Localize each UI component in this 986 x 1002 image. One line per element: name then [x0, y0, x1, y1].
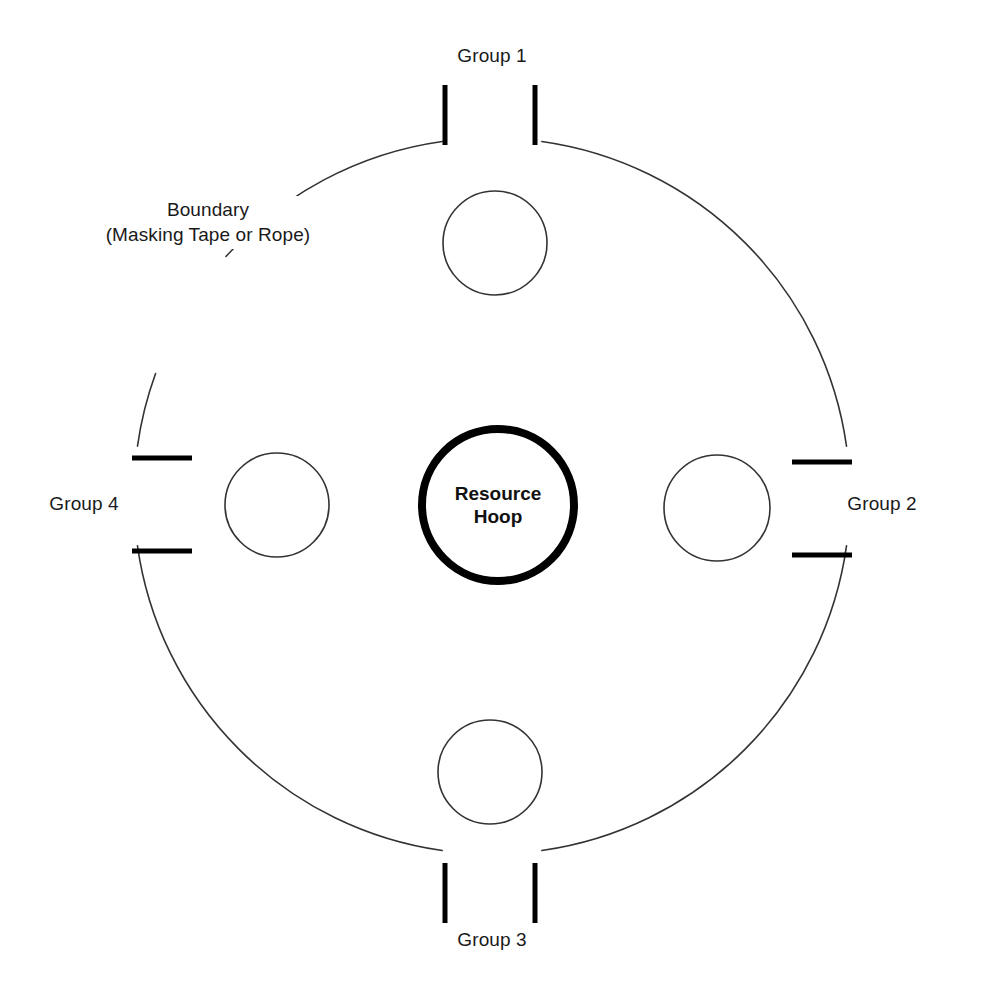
- resource-hoop-label: Resource Hoop: [455, 482, 542, 528]
- group-3-label: Group 3: [457, 928, 526, 953]
- boundary-label-line-2: (Masking Tape or Rope): [106, 224, 311, 245]
- boundary-arc-right-bottom: [542, 546, 847, 851]
- group-4-circle: [225, 453, 329, 557]
- boundary-label-line-1: Boundary: [167, 199, 249, 220]
- boundary-label: Boundary (Masking Tape or Rope): [100, 196, 317, 249]
- boundary-arc-left-top-lower: [137, 374, 155, 447]
- group-4-label: Group 4: [49, 492, 118, 517]
- group-1-label: Group 1: [457, 44, 526, 69]
- group-2-circle: [664, 455, 770, 561]
- boundary-arc-top-right: [542, 141, 847, 446]
- group-1-circle: [443, 191, 547, 295]
- group-3-circle: [438, 720, 542, 824]
- boundary-arc-bottom-left: [137, 546, 442, 851]
- resource-hoop-label-line-1: Resource: [455, 483, 542, 504]
- group-2-label: Group 2: [847, 492, 916, 517]
- diagram-canvas: Resource Hoop Boundary (Masking Tape or …: [0, 0, 986, 1002]
- resource-hoop-label-line-2: Hoop: [474, 506, 523, 527]
